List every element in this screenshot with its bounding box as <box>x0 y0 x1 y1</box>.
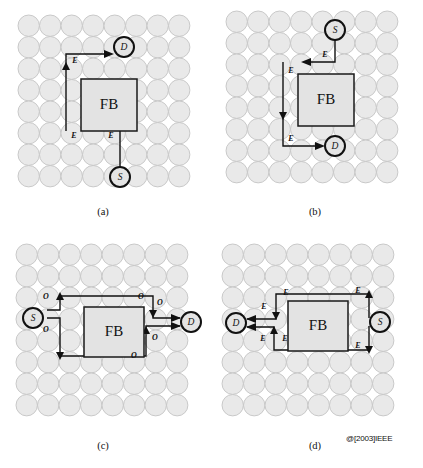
grid-circle <box>351 395 372 416</box>
grid-circle <box>287 395 308 416</box>
grid-circle <box>104 144 125 165</box>
grid-circle <box>38 373 59 394</box>
grid-circle <box>145 266 166 287</box>
grid-circle <box>222 373 243 394</box>
grid-circle <box>265 244 286 265</box>
grid-circle <box>16 395 37 416</box>
grid-circle <box>61 166 82 187</box>
grid-circle <box>145 373 166 394</box>
grid-circle <box>244 266 265 287</box>
grid-circle <box>330 395 351 416</box>
obstacle-label-a: FB <box>100 96 118 112</box>
grid-circle <box>40 80 61 101</box>
grid-circle <box>124 373 145 394</box>
panel-c-node-d: D <box>181 312 201 332</box>
grid-circle <box>248 97 269 118</box>
grid-circle <box>226 76 247 97</box>
grid-circle <box>265 373 286 394</box>
edge-label-d-6: E <box>354 341 360 350</box>
grid-circle <box>40 37 61 58</box>
grid-circle <box>104 58 125 79</box>
grid-circle <box>18 37 39 58</box>
edge-label-b-1: E <box>321 50 327 59</box>
grid-circle <box>167 266 188 287</box>
grid-circle <box>377 11 398 32</box>
grid-circle <box>40 101 61 122</box>
grid-circle <box>373 395 394 416</box>
grid-circle <box>167 287 188 308</box>
edge-label-d-3: E <box>259 334 265 343</box>
panel-c-obstacle: FB <box>84 307 144 357</box>
grid-circle <box>287 266 308 287</box>
grid-circle <box>287 352 308 373</box>
grid-circle <box>222 395 243 416</box>
grid-circle <box>377 162 398 183</box>
grid-circle <box>59 266 80 287</box>
grid-circle <box>61 15 82 36</box>
grid-circle <box>265 266 286 287</box>
source-label-c: S <box>31 313 36 323</box>
grid-circle <box>308 373 329 394</box>
grid-circle <box>169 101 190 122</box>
grid-circle <box>169 123 190 144</box>
grid-circle <box>16 352 37 373</box>
grid-circle <box>16 330 37 351</box>
grid-circle <box>126 15 147 36</box>
edge-label-c-1: O <box>43 292 49 301</box>
grid-circle <box>147 144 168 165</box>
grid-circle <box>18 15 39 36</box>
grid-circle <box>377 119 398 140</box>
copyright-notice: @[2003]IEEE <box>346 434 392 443</box>
grid-circle <box>377 33 398 54</box>
grid-circle <box>226 140 247 161</box>
grid-circle <box>167 244 188 265</box>
grid-circle <box>102 373 123 394</box>
grid-circle <box>83 144 104 165</box>
grid-circle <box>355 140 376 161</box>
grid-circle <box>244 244 265 265</box>
edge-label-a-2: E <box>70 131 76 140</box>
grid-circle <box>102 287 123 308</box>
grid-circle <box>81 287 102 308</box>
panel-a-obstacle: FB <box>81 79 137 131</box>
source-label-d: S <box>378 317 383 327</box>
grid-circle <box>355 11 376 32</box>
grid-circle <box>83 15 104 36</box>
grid-circle <box>330 373 351 394</box>
grid-circle <box>16 373 37 394</box>
figure-root: FB D S E E E (a) FB S <box>0 0 423 468</box>
grid-circle <box>40 58 61 79</box>
grid-circle <box>147 15 168 36</box>
panel-b-node-s: S <box>325 20 345 40</box>
grid-circle <box>265 352 286 373</box>
destination-label-a: D <box>120 42 128 52</box>
grid-circle <box>126 58 147 79</box>
grid-circle <box>265 395 286 416</box>
grid-circle <box>248 76 269 97</box>
panel-c-caption: (c) <box>0 440 206 451</box>
grid-circle <box>18 101 39 122</box>
grid-circle <box>145 244 166 265</box>
grid-circle <box>16 287 37 308</box>
grid-circle <box>291 33 312 54</box>
grid-circle <box>126 144 147 165</box>
grid-circle <box>291 162 312 183</box>
grid-circle <box>355 54 376 75</box>
grid-circle <box>40 144 61 165</box>
grid-circle <box>244 373 265 394</box>
grid-circle <box>226 54 247 75</box>
edge-label-c-6: O <box>131 351 137 360</box>
grid-circle <box>40 166 61 187</box>
grid-circle <box>147 58 168 79</box>
panel-b-caption: (b) <box>212 206 418 217</box>
grid-circle <box>145 395 166 416</box>
grid-circle <box>248 162 269 183</box>
panel-b-obstacle: FB <box>298 74 354 126</box>
grid-circle <box>38 266 59 287</box>
obstacle-label-d: FB <box>309 317 327 333</box>
edge-label-d-4: E <box>281 334 287 343</box>
grid-circle <box>61 101 82 122</box>
grid-circle <box>269 97 290 118</box>
source-label-a: S <box>118 172 123 182</box>
grid-circle <box>351 244 372 265</box>
